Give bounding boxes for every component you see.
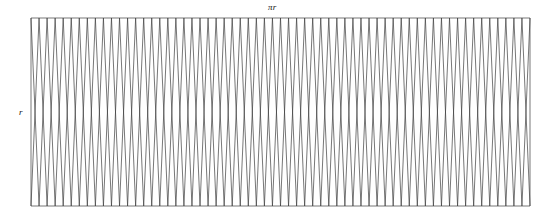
sector-diagram [0,0,558,217]
sector-edge [31,18,530,206]
sector-triangle-lines [31,18,530,206]
sector-edge [31,18,530,206]
figure-container: πr r [0,0,558,217]
height-label-r: r [19,108,23,117]
width-label-pi-r: πr [268,3,276,12]
